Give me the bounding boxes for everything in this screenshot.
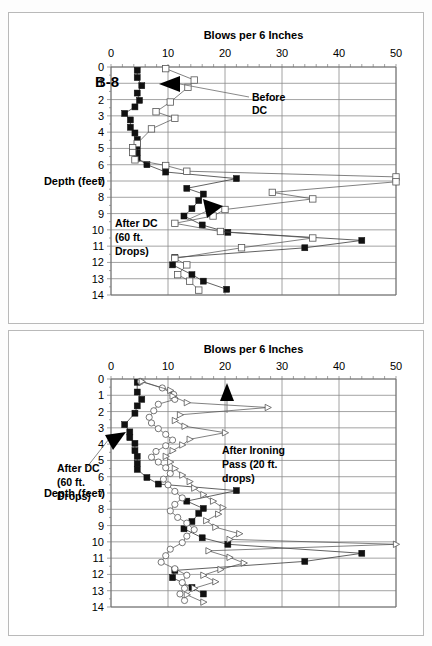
marker-open-triangle <box>210 498 216 504</box>
marker-filled-square <box>134 90 140 96</box>
marker-filled-square <box>134 466 140 472</box>
marker-open-square <box>217 228 223 234</box>
marker-open-square <box>196 287 202 293</box>
x-tick-label: 0 <box>108 360 114 372</box>
annotation-leader <box>187 211 207 220</box>
marker-open-circle <box>163 431 169 437</box>
marker-filled-square <box>181 213 187 219</box>
y-tick-label: 0 <box>98 61 104 73</box>
data-series <box>122 67 365 292</box>
marker-filled-square <box>199 535 205 541</box>
y-axis-label: Depth (feet) <box>44 175 105 187</box>
x-tick-label: 40 <box>333 360 345 372</box>
marker-filled-square <box>200 191 206 197</box>
marker-open-circle <box>155 426 161 432</box>
marker-filled-square <box>302 558 308 564</box>
marker-filled-square <box>132 410 138 416</box>
y-tick-label: 12 <box>92 568 104 580</box>
marker-filled-square <box>132 440 138 446</box>
marker-filled-square <box>132 448 138 454</box>
marker-open-triangle <box>216 511 222 517</box>
marker-open-circle <box>172 566 178 572</box>
marker-open-circle <box>179 540 185 546</box>
y-tick-label: 14 <box>92 601 104 613</box>
marker-open-square <box>172 255 178 261</box>
marker-open-circle <box>167 508 173 514</box>
annotation-text: Drops) <box>57 490 91 502</box>
marker-open-circle <box>177 591 183 597</box>
marker-filled-square <box>155 481 161 487</box>
annotation-text: Drops) <box>115 245 149 257</box>
x-tick-label: 50 <box>390 360 402 372</box>
marker-filled-square <box>189 206 195 212</box>
marker-filled-square <box>127 124 133 130</box>
marker-filled-square <box>184 185 190 191</box>
chart-axis-title: Blows per 6 Inches <box>204 343 304 355</box>
marker-open-square <box>129 149 135 155</box>
y-tick-label: 9 <box>98 520 104 532</box>
marker-open-triangle <box>177 412 183 418</box>
y-tick-label: 3 <box>98 422 104 434</box>
marker-filled-square <box>127 117 133 123</box>
marker-open-square <box>174 271 180 277</box>
marker-filled-square <box>134 67 140 73</box>
x-tick-label: 40 <box>333 47 345 59</box>
annotation-text: After DC <box>115 217 158 229</box>
marker-filled-square <box>127 435 133 441</box>
y-tick-label: 5 <box>98 142 104 154</box>
x-tick-label: 50 <box>390 47 402 59</box>
marker-open-triangle <box>213 579 219 585</box>
marker-open-square <box>153 109 159 115</box>
y-tick-label: 2 <box>98 406 104 418</box>
y-tick-label: 11 <box>93 240 104 252</box>
marker-filled-square <box>134 75 140 81</box>
marker-open-circle <box>148 420 154 426</box>
marker-filled-square <box>134 461 140 467</box>
marker-filled-square <box>137 97 143 103</box>
annotation-text: Pass (20 ft. <box>222 458 278 470</box>
marker-open-circle <box>165 482 171 488</box>
marker-filled-square <box>233 176 239 182</box>
annotation-text: DC <box>252 104 268 116</box>
marker-open-square <box>163 65 169 71</box>
y-tick-label: 1 <box>98 389 104 401</box>
y-tick-label: 4 <box>98 438 104 450</box>
y-tick-label: 11 <box>93 552 104 564</box>
chart-svg-bottom: Blows per 6 Inches0102030405001234567891… <box>9 331 423 635</box>
annotation-text: (60 ft. <box>115 231 143 243</box>
marker-filled-square <box>200 278 206 284</box>
marker-filled-square <box>302 245 308 251</box>
marker-open-triangle <box>201 572 207 578</box>
annotation-text: After Ironing <box>222 444 285 456</box>
marker-open-square <box>310 235 316 241</box>
marker-open-triangle <box>206 548 212 554</box>
marker-open-circle <box>191 527 197 533</box>
series-line <box>125 70 362 289</box>
marker-open-circle <box>169 437 175 443</box>
marker-open-square <box>269 189 275 195</box>
marker-open-triangle <box>237 531 243 537</box>
marker-open-circle <box>179 579 185 585</box>
marker-open-circle <box>179 495 185 501</box>
marker-open-triangle <box>393 541 399 547</box>
marker-filled-square <box>196 198 202 204</box>
marker-open-square <box>186 278 192 284</box>
chart-axis-title: Blows per 6 Inches <box>204 29 304 41</box>
y-tick-label: 8 <box>98 191 104 203</box>
y-tick-label: 13 <box>92 273 104 285</box>
marker-open-triangle <box>187 478 193 484</box>
marker-filled-square <box>144 475 150 481</box>
marker-open-square <box>310 196 316 202</box>
marker-filled-square <box>181 526 187 532</box>
borehole-label: B-8 <box>95 73 119 90</box>
marker-open-triangle <box>168 459 174 465</box>
marker-open-square <box>148 126 154 132</box>
marker-open-circle <box>153 448 159 454</box>
marker-filled-square <box>359 237 365 243</box>
marker-open-circle <box>184 572 190 578</box>
marker-open-square <box>167 99 173 105</box>
marker-open-circle <box>181 597 187 603</box>
y-tick-label: 10 <box>92 536 104 548</box>
y-tick-label: 8 <box>98 503 104 515</box>
marker-open-triangle <box>184 399 190 405</box>
